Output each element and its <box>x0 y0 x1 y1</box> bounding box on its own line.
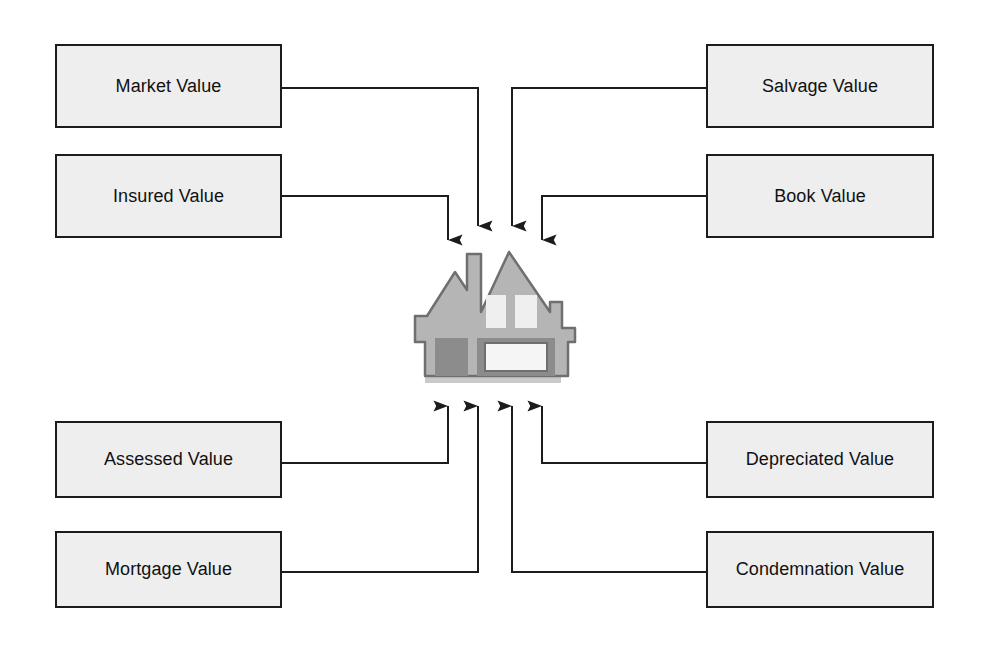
node-condemnation-value[interactable]: Condemnation Value <box>706 531 934 608</box>
node-label-insured-value: Insured Value <box>113 186 224 207</box>
house-upper-window-left <box>486 295 506 328</box>
node-salvage-value[interactable]: Salvage Value <box>706 44 934 128</box>
node-depreciated-value[interactable]: Depreciated Value <box>706 421 934 498</box>
node-market-value[interactable]: Market Value <box>55 44 282 128</box>
node-label-book-value: Book Value <box>774 186 866 207</box>
node-insured-value[interactable]: Insured Value <box>55 154 282 238</box>
house-door <box>435 338 468 376</box>
connector-market-value <box>282 88 478 226</box>
connector-condemnation-value <box>512 406 706 572</box>
house-main-window <box>485 343 547 371</box>
connector-assessed-value <box>282 406 448 463</box>
connector-depreciated-value <box>542 406 706 463</box>
node-label-market-value: Market Value <box>116 76 222 97</box>
node-label-mortgage-value: Mortgage Value <box>105 559 232 580</box>
connector-insured-value <box>282 196 448 240</box>
node-book-value[interactable]: Book Value <box>706 154 934 238</box>
node-mortgage-value[interactable]: Mortgage Value <box>55 531 282 608</box>
connector-mortgage-value <box>282 406 478 572</box>
node-label-depreciated-value: Depreciated Value <box>746 449 894 470</box>
house-upper-window-right <box>515 295 537 328</box>
diagram-canvas: Market Value Insured Value Salvage Value… <box>0 0 988 646</box>
node-label-condemnation-value: Condemnation Value <box>736 559 905 580</box>
connector-salvage-value <box>512 88 706 226</box>
node-assessed-value[interactable]: Assessed Value <box>55 421 282 498</box>
node-label-assessed-value: Assessed Value <box>104 449 233 470</box>
house-icon <box>409 250 584 390</box>
node-label-salvage-value: Salvage Value <box>762 76 878 97</box>
connector-book-value <box>542 196 706 240</box>
